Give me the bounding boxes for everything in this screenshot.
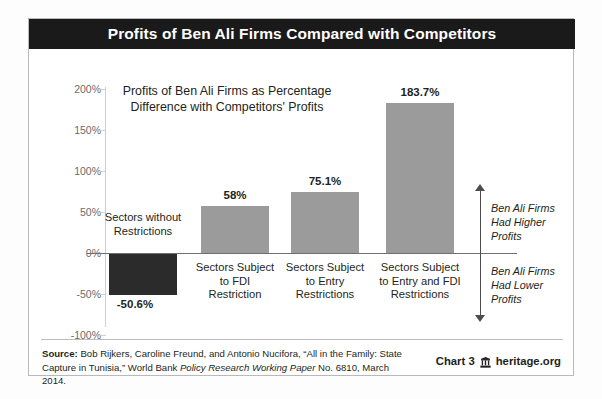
annotation-axis-line <box>480 190 481 318</box>
heritage-foundation-logo-icon <box>480 357 491 368</box>
bar-label-4-line-1: Sectors Subject <box>362 261 478 275</box>
arrow-down-icon <box>475 315 485 322</box>
y-tick-mark-200 <box>99 89 106 90</box>
annotation-higher-line-3: Profits <box>491 229 575 243</box>
bar-label-1-line-1: Sectors without <box>85 211 201 225</box>
y-tick-mark-150 <box>99 130 106 131</box>
bar-sectors-without-restrictions[interactable] <box>109 254 177 295</box>
bar-label-4-line-3: Restrictions <box>362 288 478 302</box>
y-tick-label-200: 200% <box>39 84 101 95</box>
footer-divider <box>41 339 563 340</box>
bar-value-2: 58% <box>180 190 290 202</box>
footer-brand: Chart 3 heritage.org <box>436 355 561 367</box>
y-tick-label-neg50: -50% <box>39 289 101 300</box>
chart-card: Profits of Ben Ali Firms Compared with C… <box>28 18 574 376</box>
chart-subtitle-line-1: Profits of Ben Ali Firms as Percentage <box>97 84 357 100</box>
plot-area: Profits of Ben Ali Firms as Percentage D… <box>29 49 575 339</box>
annotation-lower-line-2: Had Lower <box>491 278 575 292</box>
y-tick-mark-neg100 <box>99 335 106 336</box>
annotation-higher-line-2: Had Higher <box>491 215 575 229</box>
y-tick-mark-neg50 <box>99 294 106 295</box>
bar-value-4: 183.7% <box>365 87 475 99</box>
bar-sectors-subject-to-fdi-restriction[interactable] <box>201 206 269 253</box>
source-text-italic: Policy Research Working Paper <box>180 362 315 373</box>
chart-subtitle-line-2: Difference with Competitors' Profits <box>97 100 357 116</box>
bar-label-1-line-2: Restrictions <box>85 225 201 239</box>
y-axis-line <box>105 87 106 327</box>
bar-value-3: 75.1% <box>270 176 380 188</box>
brand-name: heritage.org <box>496 355 561 367</box>
chart-title-bar: Profits of Ben Ali Firms Compared with C… <box>29 19 575 49</box>
bar-label-4-line-2: to Entry and FDI <box>362 275 478 289</box>
bar-sectors-subject-to-entry-and-fdi-restrictions[interactable] <box>386 103 454 253</box>
page-title: Profits of Ben Ali Firms Compared with C… <box>108 26 497 42</box>
annotation-lower-profits: Ben Ali Firms Had Lower Profits <box>491 264 575 306</box>
y-tick-label-150: 150% <box>39 125 101 136</box>
bar-sectors-subject-to-entry-restrictions[interactable] <box>291 192 359 253</box>
chart-subtitle: Profits of Ben Ali Firms as Percentage D… <box>97 84 357 115</box>
bar-label-4: Sectors Subject to Entry and FDI Restric… <box>362 261 478 302</box>
chart-number: Chart 3 <box>436 355 475 367</box>
bar-label-1: Sectors without Restrictions <box>85 211 201 238</box>
chart-screenshot: Profits of Ben Ali Firms Compared with C… <box>0 0 602 399</box>
annotation-higher-line-1: Ben Ali Firms <box>491 201 575 215</box>
annotation-lower-line-1: Ben Ali Firms <box>491 264 575 278</box>
y-tick-mark-100 <box>99 171 106 172</box>
source-label: Source: <box>42 348 78 359</box>
bar-value-1: -50.6% <box>80 299 190 311</box>
source-note: Source: Bob Rijkers, Caroline Freund, an… <box>42 347 412 388</box>
annotation-higher-profits: Ben Ali Firms Had Higher Profits <box>491 201 575 243</box>
y-tick-label-100: 100% <box>39 166 101 177</box>
annotation-lower-line-3: Profits <box>491 292 575 306</box>
